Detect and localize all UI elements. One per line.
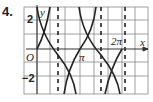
function-graph: 2 −2 y x O π 2π xyxy=(0,0,153,102)
y-tick-minus-2: −2 xyxy=(22,72,35,84)
grid xyxy=(24,7,148,94)
y-tick-2: 2 xyxy=(27,13,33,25)
x-tick-2pi: 2π xyxy=(111,35,123,47)
x-axis-label: x xyxy=(139,36,145,48)
x-tick-pi: π xyxy=(79,51,85,63)
axes xyxy=(26,5,148,94)
y-axis-label: y xyxy=(39,6,45,18)
origin-label: O xyxy=(26,51,34,63)
